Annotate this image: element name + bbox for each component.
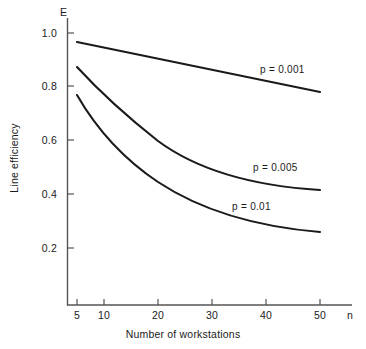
x-tick-label-5: 5: [64, 309, 90, 321]
y-tick-label-1-0: 1.0: [31, 27, 57, 39]
line-efficiency-chart: E n 1.0 0.8 0.6 0.4 0.2 5 10 20 30 40 50…: [0, 0, 366, 349]
x-tick-label-10: 10: [91, 309, 117, 321]
x-tick-label-50: 50: [307, 309, 333, 321]
x-tick-label-20: 20: [145, 309, 171, 321]
y-axis-title: Line efficiency: [8, 98, 20, 218]
chart-plot-area: [0, 0, 366, 349]
x-tick-marks: [77, 299, 320, 305]
x-axis-symbol: n: [347, 309, 353, 321]
series-annotation-p-0-01: p = 0.01: [232, 201, 271, 212]
y-tick-marks: [68, 33, 75, 248]
y-tick-label-0-4: 0.4: [31, 188, 57, 200]
x-tick-label-40: 40: [253, 309, 279, 321]
y-tick-label-0-6: 0.6: [31, 134, 57, 146]
y-tick-label-0-2: 0.2: [31, 242, 57, 254]
y-tick-label-0-8: 0.8: [31, 80, 57, 92]
x-axis-title: Number of workstations: [0, 328, 366, 340]
x-tick-label-30: 30: [199, 309, 225, 321]
y-axis-symbol: E: [60, 6, 67, 18]
series-annotation-p-0-001: p = 0.001: [260, 64, 305, 75]
series-annotation-p-0-005: p = 0.005: [253, 162, 298, 173]
